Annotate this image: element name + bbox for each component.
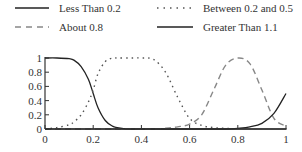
solid-line-swatch-icon — [157, 25, 193, 29]
y-tick-label: 0.4 — [28, 95, 42, 107]
legend-label: Between 0.2 and 0.5 — [203, 2, 293, 14]
legend-item-about-0-8: About 0.8 — [15, 20, 103, 34]
x-tick-label: 0.4 — [135, 133, 149, 145]
chart-legend: Less Than 0.2 Between 0.2 and 0.5 About … — [0, 0, 302, 40]
x-tick-label: 0.8 — [231, 133, 245, 145]
dotted-line-swatch-icon — [157, 6, 193, 10]
legend-item-greater-than-1-1: Greater Than 1.1 — [157, 20, 278, 34]
legend-item-between-0-2-and-0-5: Between 0.2 and 0.5 — [157, 1, 293, 15]
chart-curves — [45, 58, 286, 129]
legend-label: Greater Than 1.1 — [203, 21, 278, 33]
legend-label: About 0.8 — [59, 21, 103, 33]
x-tick-label: 0.6 — [183, 133, 197, 145]
y-tick-label: 0.2 — [28, 109, 42, 121]
x-tick-label: 1 — [283, 133, 289, 145]
y-tick-label: 0 — [37, 123, 43, 135]
y-tick-label: 0.6 — [28, 80, 42, 92]
legend-label: Less Than 0.2 — [59, 2, 121, 14]
solid-line-swatch-icon — [15, 6, 49, 10]
y-tick-label: 1 — [37, 52, 43, 64]
x-tick-label: 0 — [42, 133, 48, 145]
chart-axes: 00.20.40.60.8100.20.40.60.81 — [28, 52, 289, 145]
x-tick-label: 0.2 — [86, 133, 100, 145]
dashed-line-swatch-icon — [15, 25, 49, 29]
series-line-between-0-2-and-0-5 — [45, 58, 286, 129]
series-line-less-than-0-2 — [45, 58, 286, 129]
y-tick-label: 0.8 — [28, 66, 42, 78]
series-line-greater-than-1-1 — [45, 94, 286, 130]
legend-item-less-than-0-2: Less Than 0.2 — [15, 1, 121, 15]
series-line-about-0-8 — [45, 58, 286, 129]
